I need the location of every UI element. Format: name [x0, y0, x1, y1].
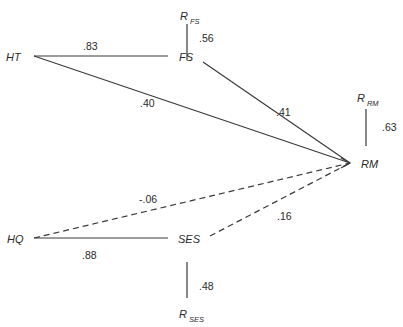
node-ht: HT: [6, 51, 21, 63]
path-diagram-lines: [0, 0, 403, 327]
node-r-rm-sub: RM: [367, 99, 379, 108]
coef-hq-rm: -.06: [139, 193, 157, 205]
coef-rrm-rm: .63: [382, 121, 397, 133]
node-r-rm-label: R: [357, 92, 365, 104]
node-r-ses-label: R: [179, 308, 187, 320]
coef-rses-ses: .48: [199, 280, 214, 292]
node-r-ses-sub: SES: [189, 315, 204, 324]
coef-hq-ses: .88: [82, 249, 97, 261]
node-r-fs-label: R: [180, 10, 188, 22]
edge-ht-rm: [34, 56, 350, 163]
node-r-fs: RFS: [180, 10, 200, 24]
coef-ht-fs: .83: [83, 40, 98, 52]
node-r-fs-sub: FS: [190, 17, 200, 26]
node-ses: SES: [178, 233, 200, 245]
edge-hq-rm: [34, 163, 350, 238]
coef-fs-rm: .41: [276, 106, 291, 118]
node-fs: FS: [179, 51, 193, 63]
node-rm: RM: [361, 158, 378, 170]
coef-ht-rm: .40: [140, 97, 155, 109]
coef-rfs-fs: .56: [199, 32, 214, 44]
coef-ses-rm: .16: [277, 210, 292, 222]
node-hq: HQ: [7, 233, 24, 245]
node-r-ses: RSES: [179, 308, 204, 322]
edge-ses-rm: [210, 163, 350, 236]
node-r-rm: RRM: [357, 92, 379, 106]
